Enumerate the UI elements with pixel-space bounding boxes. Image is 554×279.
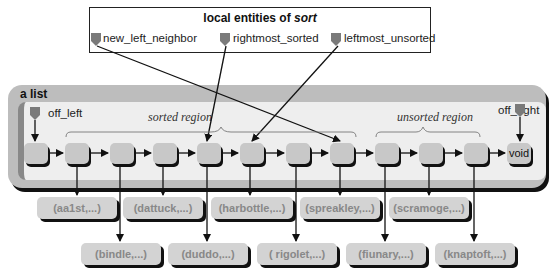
pointer-icon (30, 33, 525, 120)
arrows-overlay (0, 0, 554, 279)
